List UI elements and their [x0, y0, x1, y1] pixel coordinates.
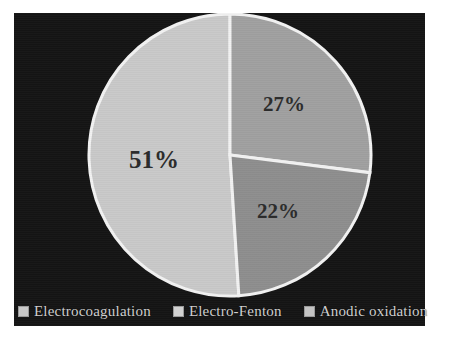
- legend-swatch-icon: [304, 306, 315, 317]
- slice-label-electro-fenton: 27%: [263, 92, 305, 116]
- slice-label-electrocoagulation: 51%: [129, 146, 179, 173]
- chart-plot-area: 51% 27% 22%: [14, 13, 425, 326]
- legend-swatch-icon: [173, 306, 184, 317]
- legend-swatch-icon: [18, 306, 29, 317]
- legend-item-label: Electro-Fenton: [189, 303, 282, 320]
- legend-item-label: Electrocoagulation: [34, 303, 151, 320]
- pie-slice-anodic-oxidation[interactable]: [230, 155, 370, 296]
- legend-item-anodic-oxidation[interactable]: Anodic oxidation: [304, 303, 428, 320]
- legend-item-electrocoagulation[interactable]: Electrocoagulation: [18, 303, 151, 320]
- pie-chart-graphic: 51% 27% 22%: [14, 13, 425, 326]
- legend-item-electro-fenton[interactable]: Electro-Fenton: [173, 303, 282, 320]
- chart-legend: Electrocoagulation Electro-Fenton Anodic…: [14, 296, 425, 326]
- pie-chart-screenshot: 51% 27% 22% Electrocoagulation Electro-F…: [0, 0, 450, 341]
- legend-item-label: Anodic oxidation: [320, 303, 428, 320]
- slice-label-anodic-oxidation: 22%: [257, 199, 299, 223]
